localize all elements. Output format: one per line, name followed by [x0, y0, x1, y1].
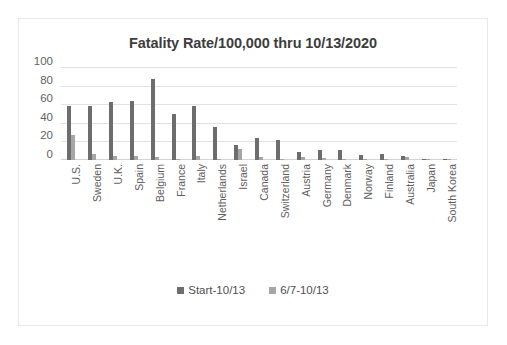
x-label-cell: Austria [290, 162, 311, 260]
x-axis-tick-label: Belgium [155, 145, 166, 183]
x-axis-tick-label: Norway [363, 146, 374, 182]
legend-entry[interactable]: 6/7-10/13 [269, 284, 329, 296]
x-label-cell: France [165, 162, 186, 260]
bar-group [103, 67, 124, 160]
x-axis-tick-label: Australia [405, 144, 416, 185]
x-label-cell: Japan [415, 162, 436, 260]
bar [109, 102, 113, 160]
x-axis-tick-label: Germany [322, 142, 333, 185]
legend-swatch-icon [177, 287, 184, 294]
x-label-cell: Spain [124, 162, 145, 260]
x-label-cell: Belgium [144, 162, 165, 260]
bar-group [124, 67, 145, 160]
x-axis-tick-label: Finland [384, 147, 395, 181]
x-label-cell: U.S. [61, 162, 82, 260]
x-label-cell: Switzerland [269, 162, 290, 260]
x-label-cell: Italy [186, 162, 207, 260]
bar-group [61, 67, 82, 160]
x-label-cell: Australia [395, 162, 416, 260]
x-axis-tick-label: U.S. [71, 154, 82, 174]
chart-legend: Start-10/136/7-10/13 [19, 284, 487, 296]
x-axis-tick-label: Denmark [342, 143, 353, 186]
x-axis-tick-label: Sweden [92, 145, 103, 183]
x-axis-tick-label: Austria [301, 148, 312, 181]
y-axis-tick-label: 100 [34, 55, 53, 67]
x-label-cell: Israel [228, 162, 249, 260]
x-axis-tick-label: Japan [426, 150, 437, 179]
chart-container: Fatality Rate/100,000 thru 10/13/2020 10… [18, 18, 488, 326]
legend-label: 6/7-10/13 [280, 284, 329, 296]
y-axis-tick-labels: 100806040200 [19, 61, 57, 160]
x-label-cell: Canada [249, 162, 270, 260]
x-label-cell: South Korea [436, 162, 457, 260]
x-axis-tick-label: Spain [134, 151, 145, 178]
legend-swatch-icon [269, 287, 276, 294]
x-label-cell: Finland [374, 162, 395, 260]
bar-group [165, 67, 186, 160]
x-axis-category-labels: U.S.SwedenU.K.SpainBelgiumFranceItalyNet… [61, 162, 457, 260]
x-label-cell: Germany [311, 162, 332, 260]
x-axis-tick-label: Israel [238, 151, 249, 177]
bar-group [186, 67, 207, 160]
bar-group [415, 67, 436, 160]
y-axis-tick-label: 80 [40, 74, 53, 86]
chart-title: Fatality Rate/100,000 thru 10/13/2020 [19, 35, 487, 51]
bar [192, 106, 196, 160]
x-axis-tick-label: Netherlands [217, 136, 228, 193]
bar-group [290, 67, 311, 160]
x-axis-tick-label: U.K. [113, 154, 124, 174]
x-axis-tick-label: South Korea [447, 135, 458, 193]
y-axis-tick-label: 0 [47, 148, 53, 160]
bar-group [228, 67, 249, 160]
y-axis-tick-label: 20 [40, 129, 53, 141]
x-axis-tick-label: Switzerland [280, 137, 291, 191]
x-axis-tick-label: France [176, 148, 187, 181]
legend-label: Start-10/13 [188, 284, 245, 296]
y-axis-tick-label: 40 [40, 111, 53, 123]
x-label-cell: Netherlands [207, 162, 228, 260]
x-axis-tick-label: Canada [259, 146, 270, 183]
y-axis-tick-label: 60 [40, 92, 53, 104]
x-label-cell: Denmark [332, 162, 353, 260]
x-axis-tick-label: Italy [196, 154, 207, 173]
x-label-cell: Sweden [82, 162, 103, 260]
x-label-cell: Norway [353, 162, 374, 260]
x-label-cell: U.K. [103, 162, 124, 260]
legend-entry[interactable]: Start-10/13 [177, 284, 245, 296]
